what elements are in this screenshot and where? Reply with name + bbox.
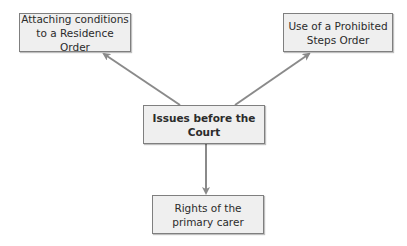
node-line: primary carer bbox=[172, 215, 244, 229]
arrow-to-top-left bbox=[104, 54, 180, 105]
node-line: Rights of the bbox=[172, 201, 244, 215]
node-primary-carer: Rights of the primary carer bbox=[152, 195, 264, 234]
arrow-to-top-right bbox=[235, 54, 309, 105]
center-label: Issues before the Court bbox=[144, 111, 264, 139]
node-line: Steps Order bbox=[288, 33, 387, 47]
node-issues-before-court: Issues before the Court bbox=[143, 105, 265, 144]
node-attaching-conditions: Attaching conditions to a Residence Orde… bbox=[19, 13, 131, 52]
node-line: Attaching conditions bbox=[20, 12, 130, 26]
node-prohibited-steps: Use of a Prohibited Steps Order bbox=[283, 13, 393, 52]
node-line: Use of a Prohibited bbox=[288, 19, 387, 33]
node-line: to a Residence Order bbox=[20, 26, 130, 54]
